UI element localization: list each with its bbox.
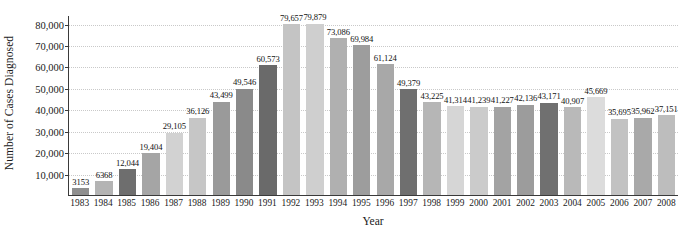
bar-slot: 79,657 <box>280 16 303 195</box>
bar-slot: 45,669 <box>584 16 607 195</box>
y-axis-title-text: Number of Cases Diagnosed <box>3 35 15 169</box>
bar[interactable]: 41,314 <box>447 106 464 195</box>
y-tick-label: 50,000 <box>35 83 64 94</box>
bar-value-label: 43,225 <box>421 91 444 101</box>
bar-slot: 79,879 <box>303 16 326 195</box>
y-tick-label: 70,000 <box>35 41 64 52</box>
x-tick-label: 2008 <box>657 198 676 208</box>
y-tick-label: 60,000 <box>35 62 64 73</box>
x-tick-label: 1997 <box>399 198 418 208</box>
bar[interactable]: 43,225 <box>423 102 440 195</box>
bar-slot: 43,225 <box>420 16 443 195</box>
bar-value-label: 3153 <box>72 177 89 187</box>
bar-slot: 42,136 <box>514 16 537 195</box>
bar[interactable]: 36,126 <box>189 118 206 195</box>
bar-value-label: 42,136 <box>514 93 537 103</box>
y-tick-label: 80,000 <box>35 19 64 30</box>
x-tick-label: 1999 <box>446 198 465 208</box>
bar[interactable]: 79,657 <box>283 24 300 195</box>
x-tick-label: 1985 <box>117 198 136 208</box>
x-tick-label: 2004 <box>563 198 582 208</box>
bar-value-label: 41,314 <box>444 95 467 105</box>
bar-slot: 41,314 <box>444 16 467 195</box>
x-axis-tick-labels: 1983198419851986198719881989199019911992… <box>68 198 678 214</box>
bar[interactable]: 19,404 <box>142 153 159 195</box>
bar[interactable]: 41,239 <box>470 107 487 195</box>
bar[interactable]: 35,962 <box>634 118 651 195</box>
bar-value-label: 12,044 <box>116 158 139 168</box>
bar-slot: 73,086 <box>327 16 350 195</box>
bar[interactable]: 6368 <box>95 181 112 195</box>
bar-value-label: 79,657 <box>280 13 303 23</box>
bar[interactable]: 40,907 <box>564 107 581 195</box>
bar-slot: 6368 <box>92 16 115 195</box>
bar-slot: 49,546 <box>233 16 256 195</box>
bar[interactable]: 60,573 <box>259 65 276 195</box>
bar-slot: 37,151 <box>655 16 678 195</box>
x-tick-label: 2001 <box>493 198 512 208</box>
bar-value-label: 43,499 <box>210 90 233 100</box>
x-tick-label: 1994 <box>328 198 347 208</box>
bar-value-label: 60,573 <box>257 54 280 64</box>
x-tick-label: 1993 <box>305 198 324 208</box>
bar-slot: 61,124 <box>374 16 397 195</box>
bar[interactable]: 37,151 <box>658 115 675 195</box>
bar-value-label: 29,105 <box>163 121 186 131</box>
bar-slot: 43,499 <box>210 16 233 195</box>
bar-slot: 3153 <box>69 16 92 195</box>
bar-value-label: 79,879 <box>303 12 326 22</box>
bar[interactable]: 49,546 <box>236 89 253 195</box>
bar-value-label: 35,962 <box>631 106 654 116</box>
bar[interactable]: 79,879 <box>306 24 323 195</box>
x-tick-label: 1992 <box>282 198 301 208</box>
x-tick-label: 1990 <box>235 198 254 208</box>
bar-slot: 35,695 <box>608 16 631 195</box>
x-tick-label: 1983 <box>70 198 89 208</box>
bar-slot: 69,984 <box>350 16 373 195</box>
bar-slot: 12,044 <box>116 16 139 195</box>
x-tick-label: 1998 <box>422 198 441 208</box>
bar-slot: 41,239 <box>467 16 490 195</box>
bar[interactable]: 61,124 <box>377 64 394 195</box>
x-tick-label: 1984 <box>94 198 113 208</box>
bar-slot: 35,962 <box>631 16 654 195</box>
bar[interactable]: 3153 <box>72 188 89 195</box>
bar-slot: 19,404 <box>139 16 162 195</box>
x-tick-label: 2005 <box>587 198 606 208</box>
x-tick-label: 2006 <box>610 198 629 208</box>
bar[interactable]: 35,695 <box>611 119 628 195</box>
x-tick-label: 2002 <box>516 198 535 208</box>
bar[interactable]: 41,227 <box>494 107 511 195</box>
bar-value-label: 73,086 <box>327 27 350 37</box>
y-tick-label: 30,000 <box>35 126 64 137</box>
bar-value-label: 61,124 <box>374 53 397 63</box>
y-axis-title: Number of Cases Diagnosed <box>0 0 18 205</box>
y-tick-label: 10,000 <box>35 169 64 180</box>
bar[interactable]: 49,379 <box>400 89 417 195</box>
bar[interactable]: 43,499 <box>213 102 230 195</box>
bar-value-label: 35,695 <box>608 107 631 117</box>
plot-area: 3153636812,04419,40429,10536,12643,49949… <box>68 16 678 196</box>
x-tick-label: 1988 <box>188 198 207 208</box>
bar[interactable]: 69,984 <box>353 45 370 195</box>
bar[interactable]: 12,044 <box>119 169 136 195</box>
x-tick-label: 1989 <box>211 198 230 208</box>
bar[interactable]: 73,086 <box>330 38 347 195</box>
bar-value-label: 36,126 <box>186 106 209 116</box>
x-tick-label: 1996 <box>375 198 394 208</box>
bar-value-label: 37,151 <box>655 104 678 114</box>
bar-value-label: 6368 <box>96 170 113 180</box>
bar-value-label: 41,239 <box>467 95 490 105</box>
bar[interactable]: 29,105 <box>166 133 183 195</box>
bar-value-label: 41,227 <box>491 95 514 105</box>
bar-value-label: 45,669 <box>584 86 607 96</box>
bar-value-label: 49,379 <box>397 78 420 88</box>
bar[interactable]: 43,171 <box>540 103 557 196</box>
x-tick-label: 1991 <box>258 198 277 208</box>
y-axis-tick-labels: 10,00020,00030,00040,00050,00060,00070,0… <box>18 0 68 196</box>
x-tick-label: 1987 <box>164 198 183 208</box>
bar[interactable]: 45,669 <box>587 97 604 195</box>
bar-slot: 29,105 <box>163 16 186 195</box>
bar[interactable]: 42,136 <box>517 105 534 195</box>
bar-slot: 36,126 <box>186 16 209 195</box>
